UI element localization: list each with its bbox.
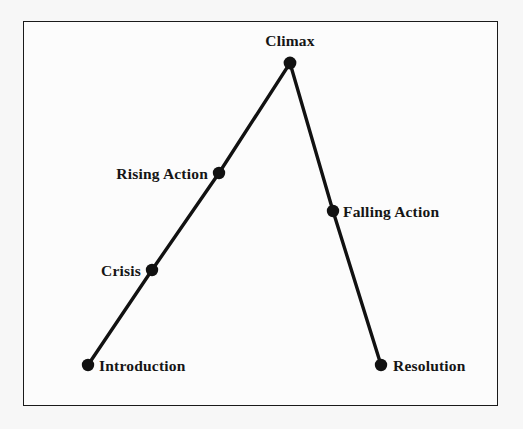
label-climax: Climax	[240, 33, 340, 49]
label-falling-action: Falling Action	[343, 204, 439, 220]
label-introduction: Introduction	[99, 358, 186, 374]
diagram-canvas: Introduction Crisis Rising Action Climax…	[0, 0, 523, 429]
label-rising-action: Rising Action	[0, 166, 208, 182]
label-crisis: Crisis	[0, 263, 141, 279]
label-resolution: Resolution	[393, 358, 466, 374]
